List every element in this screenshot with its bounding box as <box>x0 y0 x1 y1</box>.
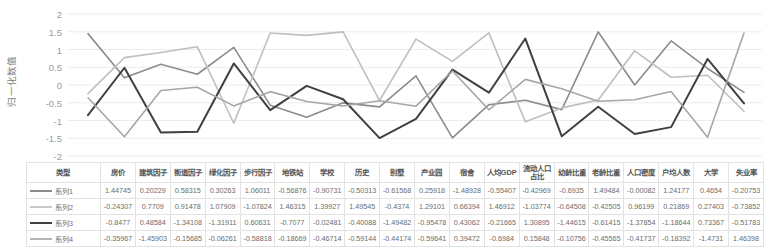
table-cell: -0.35967 <box>101 231 136 247</box>
column-header: 别墅 <box>380 163 415 183</box>
legend-line-swatch <box>30 190 52 192</box>
table-cell: 0.30263 <box>205 183 240 199</box>
table-cell: -0.59641 <box>415 231 450 247</box>
line-chart: 归一化数值 21.510.50-0.5-1-1.5-2 <box>0 0 764 162</box>
table-cell: -0.15685 <box>170 231 205 247</box>
y-axis-tick: -1 <box>54 115 62 126</box>
column-header: 绿化因子 <box>205 163 240 183</box>
legend-label: 系列4 <box>55 234 73 244</box>
table-cell: -0.59144 <box>345 231 380 247</box>
table-cell: -1.44615 <box>554 215 589 231</box>
y-axis-tick: 0.5 <box>49 62 62 73</box>
table-cell: -0.51783 <box>729 215 764 231</box>
table-cell: 1.44745 <box>101 183 136 199</box>
table-cell: -0.42969 <box>519 183 554 199</box>
column-header: 地铁站 <box>275 163 310 183</box>
data-table: 类型 房价建筑因子街道因子绿化因子步行因子地铁站学校历史别墅产业园宿舍人均GDP… <box>26 162 764 247</box>
table-cell: -0.55407 <box>484 183 519 199</box>
legend-label: 系列2 <box>55 202 73 212</box>
table-cell: 1.46315 <box>275 199 310 215</box>
column-header: 历史 <box>345 163 380 183</box>
table-cell: 1.39927 <box>310 199 345 215</box>
legend-entry: 系列3 <box>27 215 101 231</box>
table-cell: 0.48584 <box>135 215 170 231</box>
column-header: 学校 <box>310 163 345 183</box>
legend-line-swatch <box>30 238 52 240</box>
table-cell: -0.00082 <box>624 183 659 199</box>
chart-with-data-table: 归一化数值 21.510.50-0.5-1-1.5-2 类型 房价建筑因子街道因… <box>0 0 764 239</box>
table-row: 系列3-0.84770.48584-1.34108-1.319110.60631… <box>27 215 764 231</box>
legend-label: 系列1 <box>55 186 73 196</box>
column-header: 人口密度 <box>624 163 659 183</box>
table-cell: -1.4731 <box>694 231 729 247</box>
gridlines <box>68 14 762 156</box>
table-cell: -0.10756 <box>554 231 589 247</box>
table-cell: -1.45903 <box>135 231 170 247</box>
column-header-type: 类型 <box>27 163 101 183</box>
y-axis-tick: -0.5 <box>46 97 62 108</box>
table-cell: -0.42505 <box>589 199 624 215</box>
table-cell: 1.46398 <box>729 231 764 247</box>
table-cell: -0.18669 <box>275 231 310 247</box>
table-cell: -0.7077 <box>275 215 310 231</box>
table-cell: 0.73367 <box>694 215 729 231</box>
table-row: 系列11.447450.202290.583150.302631.06011-0… <box>27 183 764 199</box>
legend-line-swatch <box>30 222 52 224</box>
y-axis-title: 归一化数值 <box>0 0 22 162</box>
column-header: 产业园 <box>415 163 450 183</box>
table-cell: -0.61568 <box>380 183 415 199</box>
table-cell: 1.24177 <box>659 183 694 199</box>
table-cell: 1.07909 <box>205 199 240 215</box>
table-cell: 1.29101 <box>415 199 450 215</box>
table-cell: -0.58818 <box>240 231 275 247</box>
table-cell: -0.20753 <box>729 183 764 199</box>
column-header: 幼龄比重 <box>554 163 589 183</box>
legend-entry: 系列1 <box>27 183 101 199</box>
table-cell: 0.25918 <box>415 183 450 199</box>
table-cell: -0.40088 <box>345 215 380 231</box>
column-header: 流动人口占比 <box>519 163 554 183</box>
data-table-container: 类型 房价建筑因子街道因子绿化因子步行因子地铁站学校历史别墅产业园宿舍人均GDP… <box>26 162 764 239</box>
table-cell: -0.02481 <box>310 215 345 231</box>
table-cell: -1.18644 <box>659 215 694 231</box>
table-cell: 1.30895 <box>519 215 554 231</box>
table-cell: -1.03774 <box>519 199 554 215</box>
table-cell: 0.21869 <box>659 199 694 215</box>
table-cell: -0.95478 <box>415 215 450 231</box>
plot-area <box>68 0 762 162</box>
legend-entry: 系列2 <box>27 199 101 215</box>
table-cell: -1.49482 <box>380 215 415 231</box>
plot-svg <box>68 0 762 162</box>
table-cell: -0.45565 <box>589 231 624 247</box>
table-cell: 0.91478 <box>170 199 205 215</box>
table-cell: -0.18392 <box>659 231 694 247</box>
table-cell: -0.4374 <box>380 199 415 215</box>
table-cell: -0.56876 <box>275 183 310 199</box>
table-cell: -0.90731 <box>310 183 345 199</box>
table-cell: 0.20229 <box>135 183 170 199</box>
table-cell: -0.6984 <box>484 231 519 247</box>
column-header: 户均人数 <box>659 163 694 183</box>
column-header: 老龄比重 <box>589 163 624 183</box>
table-cell: 1.06011 <box>240 183 275 199</box>
legend-entry: 系列4 <box>27 231 101 247</box>
table-cell: 0.43062 <box>449 215 484 231</box>
table-row: 系列2-0.243070.77090.914781.07909-1.078241… <box>27 199 764 215</box>
table-body: 系列11.447450.202290.583150.302631.06011-0… <box>27 183 764 247</box>
column-header: 房价 <box>101 163 136 183</box>
table-cell: -0.6935 <box>554 183 589 199</box>
column-header: 建筑因子 <box>135 163 170 183</box>
table-cell: -1.34108 <box>170 215 205 231</box>
y-axis-tick: 0 <box>57 80 62 91</box>
table-cell: -0.41737 <box>624 231 659 247</box>
y-axis-tick: -2 <box>54 151 62 162</box>
column-header: 失业率 <box>729 163 764 183</box>
table-cell: 0.58315 <box>170 183 205 199</box>
column-header: 步行因子 <box>240 163 275 183</box>
y-axis-title-label: 归一化数值 <box>4 55 18 107</box>
table-cell: -1.37854 <box>624 215 659 231</box>
y-axis-tick: 1.5 <box>49 26 62 37</box>
table-cell: 1.49545 <box>345 199 380 215</box>
table-header-row: 类型 房价建筑因子街道因子绿化因子步行因子地铁站学校历史别墅产业园宿舍人均GDP… <box>27 163 764 183</box>
table-cell: -1.07824 <box>240 199 275 215</box>
